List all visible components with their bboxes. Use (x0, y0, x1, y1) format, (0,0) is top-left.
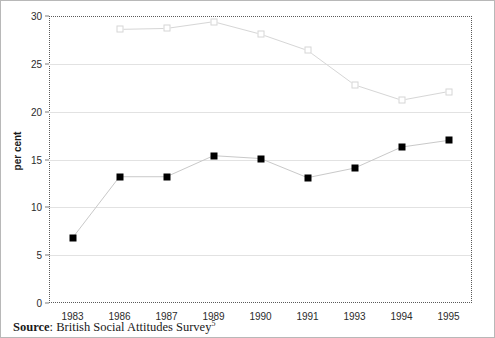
data-point-marker (398, 144, 405, 151)
data-point-marker (398, 97, 405, 104)
x-tick-label: 1991 (296, 311, 318, 322)
data-point-marker (445, 88, 452, 95)
data-point-marker (351, 165, 358, 172)
footnote-marker: 5 (211, 319, 215, 328)
data-point-marker (163, 173, 170, 180)
source-text: British Social Attitudes Survey (56, 320, 211, 334)
x-tick-label: 1994 (390, 311, 412, 322)
chart-figure: per cent 051015202530 198319861987198919… (0, 0, 495, 338)
data-point-marker (351, 81, 358, 88)
data-point-marker (116, 173, 123, 180)
x-tick-label: 1993 (343, 311, 365, 322)
y-tick-label: 0 (36, 298, 42, 309)
y-tick-label: 30 (31, 11, 42, 22)
y-tick-label: 15 (31, 154, 42, 165)
source-label: Source (13, 320, 50, 334)
source-caption: Source: British Social Attitudes Survey5 (13, 319, 215, 335)
y-tick-label: 10 (31, 202, 42, 213)
data-point-marker (304, 47, 311, 54)
x-tick-label: 1990 (249, 311, 271, 322)
data-point-marker (116, 26, 123, 33)
y-tick-label: 25 (31, 58, 42, 69)
y-tick-label: 20 (31, 106, 42, 117)
data-point-marker (163, 25, 170, 32)
data-point-marker (210, 152, 217, 159)
data-point-marker (69, 234, 76, 241)
y-axis-label: per cent (12, 132, 23, 171)
data-point-marker (257, 31, 264, 38)
data-point-marker (304, 174, 311, 181)
data-point-marker (445, 137, 452, 144)
data-point-marker (257, 155, 264, 162)
y-tick-label: 5 (36, 250, 42, 261)
plot-area: 051015202530 198319861987198919901991199… (49, 16, 472, 303)
data-point-marker (210, 18, 217, 25)
series-line (120, 22, 449, 100)
x-tick-label: 1995 (437, 311, 459, 322)
